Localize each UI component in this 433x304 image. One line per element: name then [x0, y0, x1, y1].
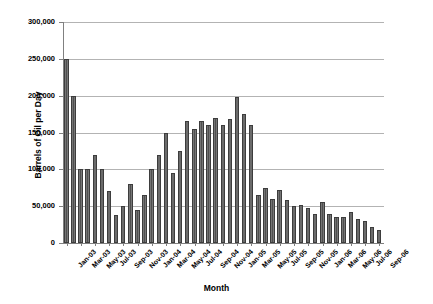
bar [320, 202, 324, 243]
bar [107, 191, 111, 243]
x-tick-mark [95, 243, 96, 246]
bar [249, 125, 253, 243]
x-tick-mark [365, 243, 366, 246]
bar [149, 169, 153, 243]
bar [114, 215, 118, 243]
x-tick-mark [195, 243, 196, 246]
bar [370, 227, 374, 243]
x-tick-mark [308, 243, 309, 246]
x-tick-mark [323, 243, 324, 246]
x-tick-mark [67, 243, 68, 246]
x-tick-mark [123, 243, 124, 246]
x-tick-mark [166, 243, 167, 246]
y-tick-label: 200,000 [0, 91, 55, 100]
bar [235, 97, 239, 243]
bar [128, 184, 132, 243]
bar [292, 206, 296, 243]
bar [142, 195, 146, 243]
bar [78, 169, 82, 243]
y-tick-label: 50,000 [0, 201, 55, 210]
bar [206, 125, 210, 243]
bar [256, 195, 260, 243]
x-tick-mark [237, 243, 238, 246]
bar [71, 96, 75, 243]
bar [306, 208, 310, 243]
x-tick-mark [280, 243, 281, 246]
bar [192, 129, 196, 243]
x-tick-mark [223, 243, 224, 246]
bar [356, 219, 360, 243]
bar [199, 121, 203, 243]
x-tick-mark [138, 243, 139, 246]
bar [363, 221, 367, 243]
bar [178, 151, 182, 243]
bar [185, 121, 189, 243]
bar [171, 173, 175, 243]
bars-container [63, 22, 383, 243]
bar [277, 190, 281, 243]
x-tick-mark [109, 243, 110, 246]
x-tick-mark [251, 243, 252, 246]
bar [270, 199, 274, 243]
y-tick-label: 100,000 [0, 164, 55, 173]
bar [157, 155, 161, 243]
bar [327, 214, 331, 243]
bar [263, 188, 267, 243]
x-tick-mark [351, 243, 352, 246]
bar [334, 217, 338, 243]
bar [341, 217, 345, 243]
bar [377, 230, 381, 243]
bar [100, 169, 104, 243]
x-tick-mark [337, 243, 338, 246]
x-axis-title: Month [0, 283, 433, 293]
bar [93, 155, 97, 243]
bar [242, 114, 246, 243]
x-tick-mark [379, 243, 380, 246]
bar [299, 205, 303, 243]
bar [85, 169, 89, 243]
y-tick-label: 300,000 [0, 17, 55, 26]
x-tick-mark [81, 243, 82, 246]
x-tick-mark [209, 243, 210, 246]
x-axis-ticks: Jan-03Mar-03May-03Jul-03Sep-03Nov-03Jan-… [63, 243, 383, 303]
bar-chart: Barrels of Oil per Day 050,000100,000150… [0, 0, 433, 304]
bar [313, 214, 317, 243]
bar [213, 118, 217, 243]
x-tick-mark [294, 243, 295, 246]
x-tick-mark [180, 243, 181, 246]
y-tick-label: 250,000 [0, 54, 55, 63]
bar [135, 210, 139, 243]
bar [221, 125, 225, 243]
bar [349, 212, 353, 243]
y-tick-label: 0 [0, 238, 55, 247]
x-tick-mark [266, 243, 267, 246]
bar [285, 200, 289, 243]
bar [121, 206, 125, 243]
bar [228, 119, 232, 243]
bar [164, 133, 168, 244]
y-tick-label: 150,000 [0, 128, 55, 137]
bar [64, 59, 68, 243]
x-tick-mark [152, 243, 153, 246]
